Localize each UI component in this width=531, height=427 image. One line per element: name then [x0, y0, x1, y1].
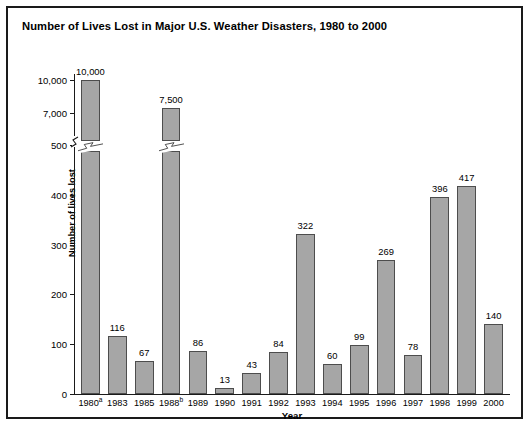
bar-group-2000[interactable]: 1402000 — [480, 74, 507, 394]
bar[interactable] — [296, 234, 315, 394]
bar-group-1997[interactable]: 781997 — [400, 74, 427, 394]
x-axis-title: Year — [74, 410, 510, 421]
figure-frame: Number of Lives Lost in Major U.S. Weath… — [6, 6, 523, 419]
bar[interactable] — [242, 373, 261, 394]
footnote-marker: b — [179, 396, 183, 403]
x-tick-label-1993: 1993 — [295, 398, 315, 408]
y-tick-label: 10,000 — [38, 75, 67, 86]
bar-group-1985[interactable]: 671985 — [131, 74, 158, 394]
bar-group-1990[interactable]: 131990 — [211, 74, 238, 394]
y-tick-label: 400 — [51, 189, 67, 200]
x-tick-label-1989: 1989 — [188, 398, 208, 408]
bar[interactable] — [457, 186, 476, 394]
bar[interactable] — [430, 197, 449, 394]
x-tick-label-1999: 1999 — [456, 398, 476, 408]
bar-group-1989[interactable]: 861989 — [185, 74, 212, 394]
bar-value-label: 417 — [459, 172, 475, 183]
tick-mark — [70, 195, 74, 196]
y-axis-line — [74, 74, 75, 394]
bar-group-1983[interactable]: 1161983 — [104, 74, 131, 394]
bar-value-label: 396 — [432, 183, 448, 194]
y-tick-label: 7,000 — [43, 108, 67, 119]
bar-group-1994[interactable]: 601994 — [319, 74, 346, 394]
bar-lower-segment[interactable] — [162, 151, 181, 394]
x-tick-label-1996: 1996 — [376, 398, 396, 408]
bar-value-label: 269 — [378, 246, 394, 257]
bar[interactable] — [215, 388, 234, 394]
x-tick-label-1980: 1980a — [78, 398, 102, 408]
bar-value-label: 140 — [486, 310, 502, 321]
bar-group-1996[interactable]: 2691996 — [373, 74, 400, 394]
tick-mark — [70, 344, 74, 345]
x-tick-label-1998: 1998 — [430, 398, 450, 408]
bar[interactable] — [189, 351, 208, 394]
bar-value-label: 86 — [193, 337, 203, 348]
bar-group-1995[interactable]: 991995 — [346, 74, 373, 394]
tick-mark — [70, 394, 74, 395]
bar-lower-segment[interactable] — [81, 151, 100, 394]
tick-mark — [70, 294, 74, 295]
x-tick-label-1991: 1991 — [241, 398, 261, 408]
y-tick-label: 500 — [51, 140, 67, 151]
x-tick-label-1994: 1994 — [322, 398, 342, 408]
y-tick-label: 100 — [51, 339, 67, 350]
bar-value-label: 67 — [139, 347, 149, 358]
bar-value-label: 322 — [298, 220, 314, 231]
bar[interactable] — [323, 364, 342, 394]
bar-value-label: 99 — [354, 331, 364, 342]
bar-group-1993[interactable]: 3221993 — [292, 74, 319, 394]
bar-group-1991[interactable]: 431991 — [238, 74, 265, 394]
plot-area: 01002003004005007,00010,000 10,0001980a1… — [74, 74, 510, 394]
x-tick-label-1990: 1990 — [215, 398, 235, 408]
bar-value-label: 10,000 — [76, 66, 105, 77]
x-tick-label-1995: 1995 — [349, 398, 369, 408]
tick-mark — [70, 113, 74, 114]
bar[interactable] — [377, 260, 396, 394]
tick-mark — [70, 145, 74, 146]
bar-upper-segment[interactable] — [81, 80, 100, 141]
bar[interactable] — [108, 336, 127, 394]
bar-group-1980[interactable]: 10,0001980a — [77, 74, 104, 394]
bar[interactable] — [350, 345, 369, 394]
y-tick-label: 200 — [51, 289, 67, 300]
x-tick-label-2000: 2000 — [483, 398, 503, 408]
x-tick-label-1983: 1983 — [107, 398, 127, 408]
bar-value-label: 84 — [273, 338, 283, 349]
tick-mark — [70, 80, 74, 81]
tick-mark — [70, 245, 74, 246]
x-tick-label-1985: 1985 — [134, 398, 154, 408]
x-axis-line — [74, 394, 510, 395]
y-tick-label: 0 — [62, 389, 67, 400]
bar-value-label: 60 — [327, 350, 337, 361]
bar-group-1998[interactable]: 3961998 — [426, 74, 453, 394]
bar-value-label: 13 — [220, 374, 230, 385]
x-tick-label-1988: 1988b — [159, 398, 183, 408]
x-tick-label-1992: 1992 — [268, 398, 288, 408]
bar-value-label: 78 — [408, 341, 418, 352]
bar-group-1988[interactable]: 7,5001988b — [158, 74, 185, 394]
footnote-marker: a — [99, 396, 103, 403]
bar[interactable] — [484, 324, 503, 394]
bar-upper-segment[interactable] — [162, 108, 181, 142]
x-tick-label-1997: 1997 — [403, 398, 423, 408]
bar-value-label: 43 — [246, 359, 256, 370]
bar-group-1992[interactable]: 841992 — [265, 74, 292, 394]
y-tick-label: 300 — [51, 239, 67, 250]
bar[interactable] — [404, 355, 423, 394]
bar[interactable] — [269, 352, 288, 394]
bar[interactable] — [135, 361, 154, 394]
bar-value-label: 116 — [110, 322, 125, 333]
bar-group-1999[interactable]: 4171999 — [453, 74, 480, 394]
bar-value-label: 7,500 — [159, 94, 182, 105]
chart-title: Number of Lives Lost in Major U.S. Weath… — [22, 20, 387, 32]
